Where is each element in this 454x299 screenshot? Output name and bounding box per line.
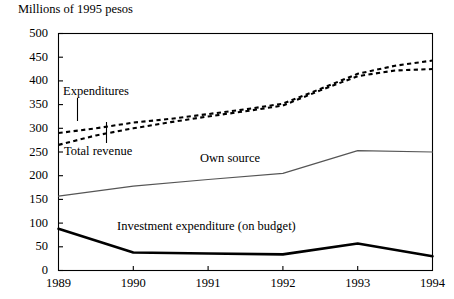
x-tick-label: 1991 (180, 277, 236, 289)
chart-figure: Millions of 1995 pesos 05010015020025030… (0, 0, 454, 299)
series-label-own-source: Own source (200, 152, 260, 165)
y-tick-label: 400 (14, 74, 48, 86)
y-tick-label: 50 (14, 240, 48, 252)
y-tick-label: 250 (14, 146, 48, 158)
x-tick-label: 1989 (31, 277, 87, 289)
x-tick-label: 1993 (330, 277, 386, 289)
y-tick-label: 200 (14, 169, 48, 181)
series-line (59, 69, 433, 145)
y-tick-label: 100 (14, 217, 48, 229)
y-tick-label: 450 (14, 51, 48, 63)
y-tick-label: 350 (14, 98, 48, 110)
x-tick-label: 1990 (105, 277, 161, 289)
y-tick-label: 500 (14, 27, 48, 39)
y-tick-label: 0 (14, 264, 48, 276)
y-axis-title: Millions of 1995 pesos (18, 2, 133, 16)
y-tick-label: 300 (14, 122, 48, 134)
x-tick-label: 1992 (255, 277, 311, 289)
series-label-total-revenue: Total revenue (64, 145, 132, 158)
y-tick-label: 150 (14, 193, 48, 205)
x-tick-label: 1994 (405, 277, 454, 289)
series-label-investment: Investment expenditure (on budget) (117, 220, 296, 233)
series-label-expenditures: Expenditures (63, 85, 129, 98)
